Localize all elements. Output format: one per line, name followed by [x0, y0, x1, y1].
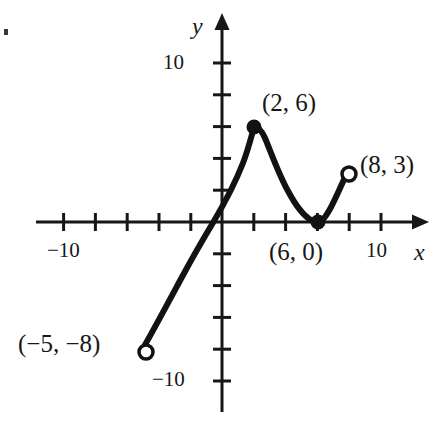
y-axis-name-label: y: [192, 14, 203, 38]
point-marker-left-endpoint: [139, 345, 153, 359]
coordinate-plane: [0, 0, 442, 426]
annotation-minimum-point: (6, 0): [269, 239, 323, 264]
y-axis-tick-label-10: 10: [163, 52, 184, 73]
annotation-maximum-point: (2, 6): [262, 90, 316, 115]
graph-figure: 10 −10 −10 10 y x (2, 6) (6, 0) (8, 3) (…: [0, 0, 442, 426]
point-marker-right-endpoint: [342, 167, 356, 181]
point-marker-maximum: [247, 120, 262, 135]
x-axis-tick-label-negative-10: −10: [47, 240, 80, 261]
annotation-left-endpoint: (−5, −8): [18, 331, 100, 356]
point-marker-minimum: [311, 215, 326, 230]
x-axis-name-label: x: [414, 240, 425, 264]
y-axis-tick-label-negative-10: −10: [152, 369, 185, 390]
annotation-right-endpoint: (8, 3): [360, 152, 414, 177]
x-axis-tick-label-10: 10: [366, 240, 387, 261]
